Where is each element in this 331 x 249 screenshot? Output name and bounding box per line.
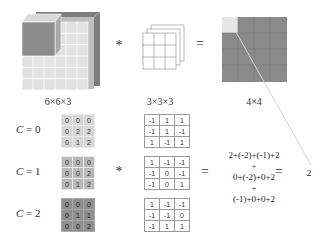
channel-label-1: C = 1	[16, 165, 41, 177]
input-channel-1-matrix: 000 002 012	[61, 156, 95, 190]
output-size-label: 4×4	[224, 96, 284, 107]
equals-operator-top: =	[193, 36, 207, 52]
input-channel-0-matrix: 000 022 012	[61, 114, 95, 148]
result-value: 2	[302, 168, 316, 179]
sum-line-2: (-1)+0+0+2	[214, 194, 294, 205]
filter-size-label: 3×3×3	[130, 96, 190, 107]
convolution-operator-top: *	[112, 38, 126, 54]
equals-operator-result: =	[272, 164, 286, 180]
sum-plus-1: +	[214, 183, 294, 194]
convolution-operator-bottom: *	[112, 164, 126, 180]
channel-label-0: C = 0	[16, 123, 41, 135]
sum-line-0: 2+(-2)+(-1)+2	[214, 150, 294, 161]
channel-label-2: C = 2	[16, 207, 41, 219]
filter-channel-0-matrix: -111 -11-1 1-11	[144, 114, 190, 148]
equals-operator-bottom: =	[198, 164, 212, 180]
input-size-label: 6×6×3	[28, 96, 88, 107]
input-channel-2-matrix: 000 011 002	[61, 198, 95, 232]
filter-channel-1-matrix: 1-1-1 -10-1 -101	[144, 156, 190, 190]
filter-channel-2-matrix: 1-1-1 -1-10 -111	[144, 198, 190, 232]
